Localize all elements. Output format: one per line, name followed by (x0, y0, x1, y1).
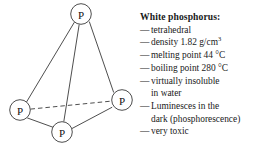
property-text: density 1.82 g/cm (151, 37, 218, 47)
property-text-continuation: in water (151, 87, 263, 100)
edge-left-right-dashed (31, 101, 112, 109)
list-item: —tetrahedral (140, 24, 263, 37)
bullet-dash: — (140, 125, 149, 138)
property-text: melting point 44 °C (151, 50, 225, 60)
property-text: Luminesces in the (151, 101, 219, 111)
bullet-dash: — (140, 49, 149, 62)
property-superscript: 3 (218, 35, 221, 42)
bullet-dash: — (140, 24, 149, 37)
bullet-dash: — (140, 36, 149, 49)
vertex-right-label: P (119, 95, 125, 107)
tetrahedron-vertices: P P P P (10, 4, 133, 143)
edge-left-bottom (27, 118, 55, 128)
bullet-dash: — (140, 100, 149, 113)
vertex-top: P (71, 4, 92, 25)
vertex-left: P (10, 100, 31, 121)
edge-right-bottom (72, 107, 112, 128)
property-text: tetrahedral (151, 25, 191, 35)
vertex-right: P (112, 90, 133, 111)
p4-tetrahedron-diagram: P P P P (0, 0, 140, 152)
property-text-continuation: dark (phosphorescence) (151, 113, 263, 126)
vertex-bottom: P (52, 122, 73, 143)
tetrahedron-edges (27, 22, 114, 129)
edge-top-right (89, 22, 113, 93)
vertex-top-label: P (78, 9, 84, 21)
tetrahedron-svg: P P P P (0, 0, 140, 152)
bullet-dash: — (140, 75, 149, 88)
list-item: —boiling point 280 °C (140, 62, 263, 75)
property-text: virtually insoluble (151, 76, 219, 86)
edge-top-bottom (64, 24, 79, 121)
property-text: very toxic (151, 126, 189, 136)
properties-panel: White phosphorus: —tetrahedral —density … (140, 11, 263, 138)
bullet-dash: — (140, 62, 149, 75)
list-item: —very toxic (140, 125, 263, 138)
vertex-left-label: P (17, 105, 23, 117)
list-item: —virtually insoluble in water (140, 75, 263, 100)
edge-top-left (27, 22, 75, 102)
list-item: —melting point 44 °C (140, 49, 263, 62)
properties-list: —tetrahedral —density 1.82 g/cm3 —meltin… (140, 24, 263, 138)
list-item: —density 1.82 g/cm3 (140, 36, 263, 49)
panel-title: White phosphorus: (140, 11, 263, 24)
list-item: —Luminesces in the dark (phosphorescence… (140, 100, 263, 125)
vertex-bottom-label: P (59, 127, 65, 139)
property-text: boiling point 280 °C (151, 63, 228, 73)
white-phosphorus-figure: P P P P White phosphorus: —tet (0, 0, 263, 152)
